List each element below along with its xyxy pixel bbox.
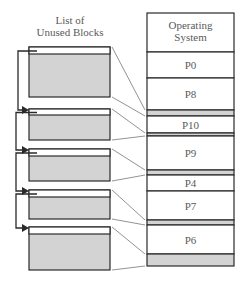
segment-label: P8 [185,88,197,100]
segment-label: System [174,31,207,43]
segment-label: P10 [182,119,200,131]
segment-label: P0 [185,59,197,71]
free-segment [147,254,234,266]
memory-column: OperatingSystemP0P8P10P9P4P7P6 [147,13,234,266]
segment-label: P4 [185,177,197,189]
memory-free-list-diagram: OperatingSystemP0P8P10P9P4P7P6 [0,0,245,285]
free-segment [147,110,234,116]
process-segment-p10: P10 [147,116,234,133]
free-list-node [29,227,110,270]
node-header [29,149,110,156]
segment-label: P6 [185,234,197,246]
node-header [29,190,110,197]
process-segment-p6: P6 [147,225,234,254]
process-segment-os: OperatingSystem [147,13,234,52]
free-list-node [29,190,110,219]
node-header [29,227,110,234]
segment-label: P7 [185,200,197,212]
free-list-node [29,149,110,181]
node-header [29,109,110,115]
process-segment-p4: P4 [147,175,234,191]
free-segment [147,220,234,225]
segment-label: P9 [185,147,197,159]
free-list-node [29,109,110,140]
process-segment-p7: P7 [147,191,234,220]
node-header [29,47,110,54]
process-segment-p9: P9 [147,136,234,170]
free-list-node [29,47,110,97]
process-segment-p8: P8 [147,78,234,110]
process-segment-p0: P0 [147,52,234,78]
leader-lines [112,47,145,270]
segment-label: Operating [169,19,213,31]
free-block-list [29,47,110,270]
free-segment [147,170,234,175]
